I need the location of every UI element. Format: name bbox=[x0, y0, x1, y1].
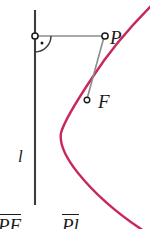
caption-fragment-pf-text: PF bbox=[0, 215, 21, 229]
caption-fragment-pl: Pl bbox=[62, 214, 79, 229]
figure-canvas bbox=[0, 0, 150, 229]
point-P-label: P bbox=[110, 28, 122, 47]
right-angle-dot-icon bbox=[41, 42, 44, 45]
geometry-figure: P F l PF Pl bbox=[0, 0, 150, 229]
point-P-marker bbox=[102, 33, 108, 39]
caption-fragment-pf: PF bbox=[0, 214, 21, 229]
focal-segment-PF bbox=[87, 37, 104, 99]
caption-row: PF Pl bbox=[0, 214, 150, 229]
point-F-label: F bbox=[98, 92, 110, 111]
point-D-marker bbox=[32, 33, 38, 39]
point-F-marker bbox=[84, 97, 90, 103]
directrix-label: l bbox=[18, 148, 23, 165]
caption-fragment-pl-text: Pl bbox=[62, 215, 79, 229]
